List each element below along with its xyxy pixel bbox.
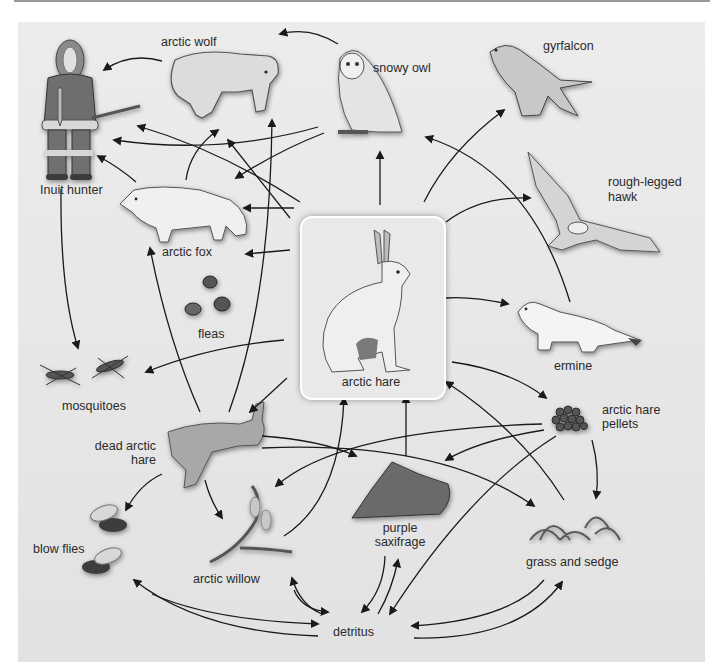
label-arctic-hare: arctic hare — [300, 375, 442, 389]
label-rough-legged-hawk-line1: rough-legged — [608, 175, 682, 189]
label-mosquitoes: mosquitoes — [62, 399, 126, 413]
blow-flies-icon — [82, 502, 127, 574]
arctic-hare-icon — [302, 218, 444, 398]
label-ermine: ermine — [554, 359, 592, 373]
label-snowy-owl: snowy owl — [373, 61, 431, 75]
label-fleas: fleas — [198, 327, 224, 341]
gyrfalcon-icon — [490, 45, 592, 116]
label-inuit-hunter: Inuit hunter — [40, 183, 103, 197]
label-gyrfalcon: gyrfalcon — [543, 39, 594, 53]
label-grass-and-sedge: grass and sedge — [526, 555, 618, 569]
arctic-hare-card — [300, 216, 446, 400]
arctic-hare-pellets-icon — [552, 406, 588, 431]
mosquitoes-icon — [40, 356, 128, 385]
purple-saxifrage-icon — [352, 462, 450, 518]
label-purple-saxifrage-line2: saxifrage — [370, 535, 430, 549]
label-purple-saxifrage-line1: purple — [370, 521, 430, 535]
fleas-icon — [185, 276, 230, 315]
dead-arctic-hare-icon — [168, 402, 264, 488]
label-dead-arctic-hare-line2: hare — [80, 453, 156, 467]
arctic-wolf-icon — [171, 52, 278, 118]
label-arctic-hare-pellets-line2: pellets — [602, 417, 638, 431]
arctic-willow-icon — [210, 486, 292, 562]
grass-and-sedge-icon — [530, 517, 620, 540]
label-blow-flies: blow flies — [33, 542, 84, 556]
label-arctic-willow: arctic willow — [193, 572, 260, 586]
ermine-icon — [518, 302, 642, 352]
label-arctic-wolf: arctic wolf — [161, 35, 217, 49]
arctic-fox-icon — [120, 187, 247, 242]
label-detritus: detritus — [333, 625, 374, 639]
label-arctic-hare-pellets-line1: arctic hare — [602, 403, 660, 417]
rough-legged-hawk-icon — [528, 152, 660, 252]
label-dead-arctic-hare-line1: dead arctic — [80, 439, 156, 453]
inuit-hunter-icon — [42, 40, 140, 180]
label-arctic-fox: arctic fox — [162, 245, 212, 259]
label-rough-legged-hawk-line2: hawk — [608, 190, 637, 204]
